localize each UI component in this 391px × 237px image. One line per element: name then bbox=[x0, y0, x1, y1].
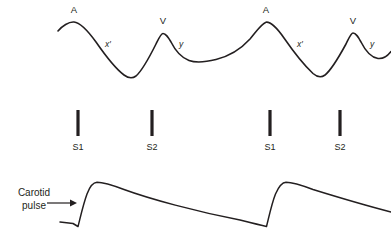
v-wave-label-1: V bbox=[160, 15, 167, 26]
jvp-peak-labels: A V A V bbox=[71, 4, 357, 26]
jvp-descent-labels: x′ y x′ y bbox=[104, 39, 375, 49]
a-wave-label-1: A bbox=[71, 4, 78, 15]
carotid-pointer-arrow-head bbox=[70, 200, 77, 207]
carotid-pulse-annotation: Carotid pulse bbox=[18, 187, 77, 211]
jvp-figure: A V A V x′ y x′ y S1 S2 S1 S2 bbox=[0, 0, 391, 237]
carotid-waveform-path bbox=[60, 182, 391, 226]
x-descent-label-2: x′ bbox=[296, 39, 303, 49]
carotid-waveform-group bbox=[60, 182, 391, 226]
s1-label-1: S1 bbox=[72, 142, 83, 152]
carotid-pulse-label-line1: Carotid bbox=[18, 187, 50, 198]
s2-label-1: S2 bbox=[146, 142, 157, 152]
y-descent-label-1: y bbox=[178, 39, 184, 49]
s1-label-2: S1 bbox=[264, 142, 275, 152]
x-descent-label-1: x′ bbox=[104, 39, 111, 49]
jvp-waveform-group bbox=[58, 22, 391, 78]
a-wave-label-2: A bbox=[263, 4, 270, 15]
heart-sound-ticks bbox=[78, 110, 340, 136]
y-descent-label-2: y bbox=[369, 39, 375, 49]
v-wave-label-2: V bbox=[350, 15, 357, 26]
heart-sound-labels: S1 S2 S1 S2 bbox=[72, 142, 345, 152]
carotid-pulse-label-line2: pulse bbox=[22, 200, 46, 211]
jvp-waveform-path bbox=[58, 22, 391, 78]
s2-label-2: S2 bbox=[334, 142, 345, 152]
figure-canvas: A V A V x′ y x′ y S1 S2 S1 S2 bbox=[0, 0, 391, 237]
